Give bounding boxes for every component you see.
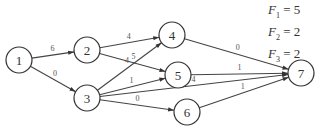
edge-weight-label: 4: [125, 56, 129, 65]
formula-f2: F2 = 2: [268, 24, 300, 46]
edge-weight-label: 1: [241, 82, 245, 91]
node-label: 6: [184, 105, 191, 120]
node-label: 2: [84, 43, 91, 58]
formula-f3: F3 = 2: [268, 46, 300, 68]
edge-weight-label: 4: [192, 75, 196, 84]
edge-weight-label: 0: [53, 69, 57, 78]
node-4: 4: [159, 22, 185, 48]
node-1: 1: [6, 47, 32, 73]
edge-weight-label: 4: [127, 32, 131, 41]
node-6: 6: [174, 99, 200, 125]
node-label: 4: [169, 28, 176, 43]
node-label: 1: [16, 53, 23, 68]
edge-weight-label: 1: [130, 76, 134, 85]
edge-weight-label: 0: [136, 94, 140, 103]
edge-weight-label: 6: [50, 44, 54, 53]
edge-weight-label: 0: [236, 43, 240, 52]
edge-3-7: 4: [100, 75, 288, 97]
edge-3-6: 0: [100, 94, 174, 110]
node-label: 5: [175, 68, 182, 83]
edge-2-4: 4: [100, 32, 159, 48]
node-2: 2: [74, 37, 100, 63]
node-3: 3: [74, 85, 100, 111]
edge-3-5: 1: [100, 76, 166, 95]
edge-weight-label: 5: [132, 52, 136, 61]
edge-1-2: 6: [32, 44, 74, 58]
edges-layer: 60454140011: [30, 32, 288, 111]
edge-2-5: 5: [100, 52, 166, 72]
node-label: 3: [84, 91, 91, 106]
edge-1-3: 0: [30, 66, 75, 91]
formula-f1: F1 = 5: [268, 2, 300, 24]
formula-block: F1 = 5 F2 = 2 F3 = 2: [268, 2, 300, 68]
edge-weight-label: 1: [237, 63, 241, 72]
edge-6-7: 1: [199, 77, 288, 108]
node-5: 5: [165, 62, 191, 88]
